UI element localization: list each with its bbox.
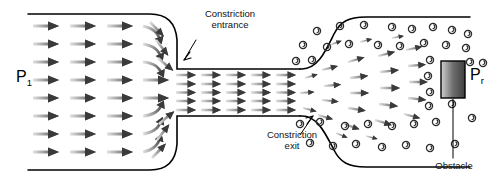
leader-exit-head <box>306 116 313 124</box>
inlet-pressure-subscript: 1 <box>27 77 32 88</box>
obstacle-block <box>441 61 465 98</box>
label-constriction-entrance: Constriction entrance <box>192 8 268 30</box>
channel-walls <box>28 14 470 170</box>
outlet-pressure-symbol: P <box>470 66 481 83</box>
label-inlet-pressure: P1 <box>16 68 32 88</box>
label-constriction-exit: Constriction exit <box>254 129 330 151</box>
inlet-flow-arrows <box>33 22 133 157</box>
funnel-converging-arrows <box>140 19 177 160</box>
inlet-pressure-symbol: P <box>16 68 27 85</box>
label-outlet-pressure: Pr <box>470 66 484 86</box>
outlet-pressure-subscript: r <box>481 75 484 86</box>
label-obstacle: Obstacle <box>424 160 484 171</box>
throat-flow-arrows <box>176 71 296 113</box>
